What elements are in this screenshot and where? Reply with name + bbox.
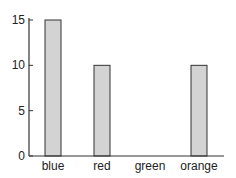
bar-blue (45, 20, 61, 156)
y-ticks: 051015 (12, 13, 33, 163)
bar-red (94, 65, 110, 156)
bar-orange (191, 65, 207, 156)
x-tick-label: blue (42, 159, 65, 173)
x-tick-label: red (93, 159, 110, 173)
bars (45, 20, 207, 156)
x-tick-label: orange (180, 159, 218, 173)
y-tick-label: 0 (18, 149, 25, 163)
x-labels: blueredgreenorange (42, 159, 218, 173)
x-tick-label: green (135, 159, 166, 173)
y-tick-label: 15 (12, 13, 26, 27)
bar-chart: 051015 blueredgreenorange (0, 0, 236, 178)
y-tick-label: 10 (12, 58, 26, 72)
y-tick-label: 5 (18, 104, 25, 118)
